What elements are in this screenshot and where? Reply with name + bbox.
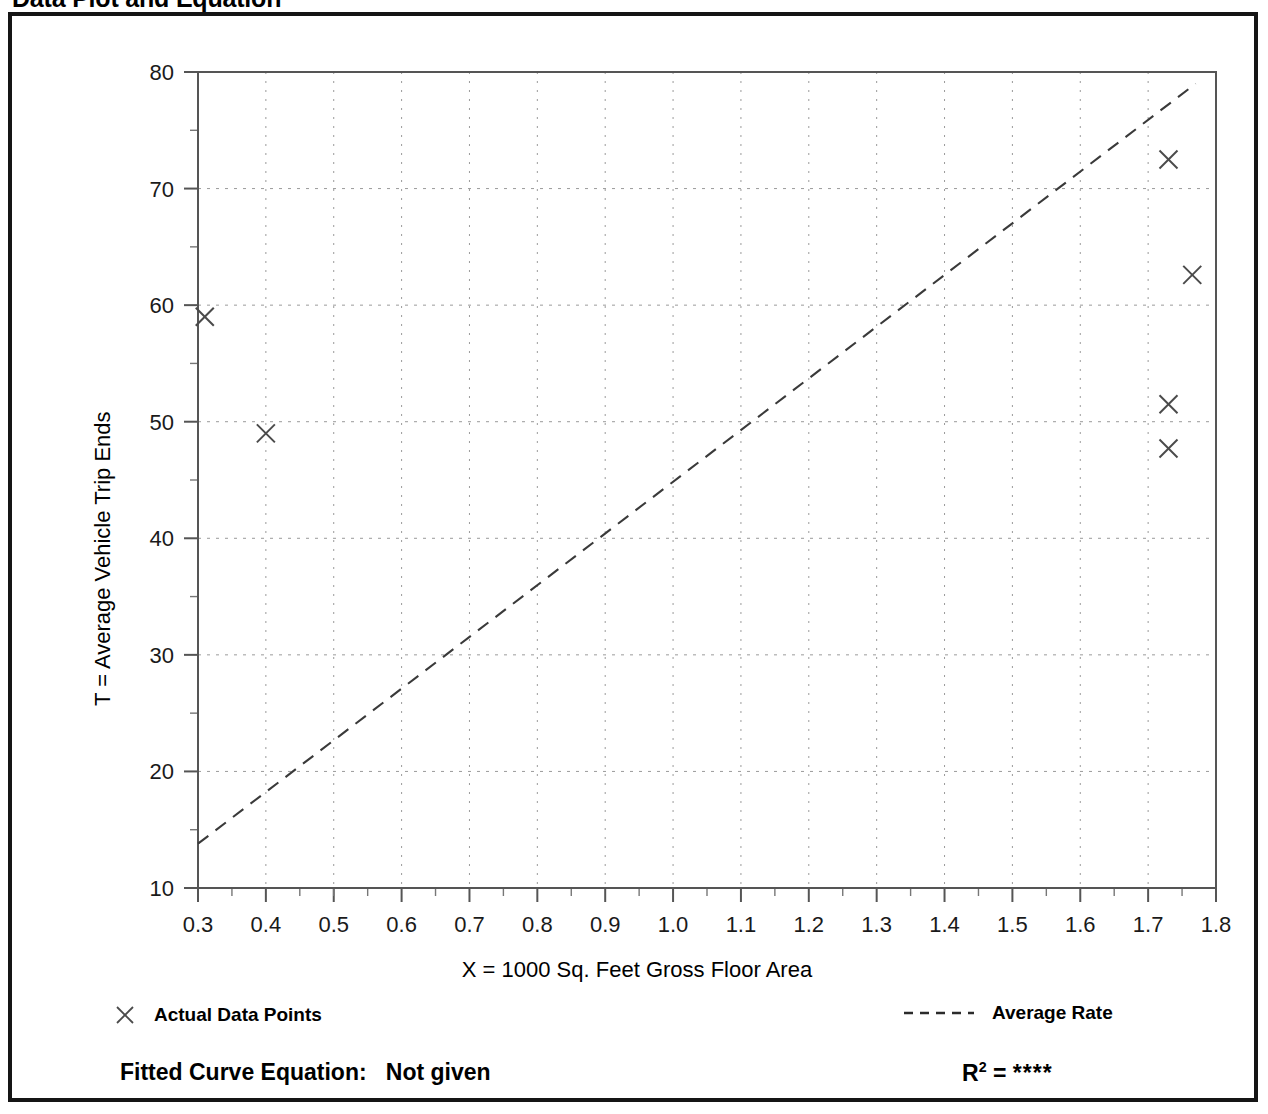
average-rate-trend-line [198, 84, 1196, 844]
axis-lines [198, 72, 1216, 888]
horizontal-gridlines [198, 72, 1216, 771]
x-tick-label: 0.6 [386, 912, 417, 937]
x-tick-label: 1.1 [726, 912, 757, 937]
y-tick-label: 20 [150, 759, 174, 784]
x-tick-label: 1.6 [1065, 912, 1096, 937]
y-axis-ticks [184, 72, 198, 888]
data-point-marker [1159, 150, 1177, 168]
x-axis-tick-labels: 0.30.40.50.60.70.80.91.01.11.21.31.41.51… [183, 912, 1232, 937]
x-tick-label: 1.0 [658, 912, 689, 937]
legend-item-actual-data-points: Actual Data Points [112, 1002, 322, 1028]
x-tick-label: 1.2 [794, 912, 825, 937]
x-tick-label: 1.8 [1201, 912, 1232, 937]
y-tick-label: 80 [150, 60, 174, 85]
x-tick-label: 0.5 [318, 912, 349, 937]
r-squared-exponent: 2 [979, 1059, 987, 1075]
x-tick-label: 1.3 [861, 912, 892, 937]
r-squared-symbol: R [962, 1060, 979, 1086]
y-tick-label: 30 [150, 643, 174, 668]
r-squared-value: **** [1013, 1060, 1053, 1086]
x-tick-label: 0.8 [522, 912, 553, 937]
x-tick-label: 0.7 [454, 912, 485, 937]
x-tick-label: 0.9 [590, 912, 621, 937]
x-axis-title: X = 1000 Sq. Feet Gross Floor Area [12, 957, 1262, 983]
x-tick-label: 0.4 [251, 912, 282, 937]
fitted-curve-equation-value: Not given [386, 1059, 491, 1085]
data-point-marker [257, 424, 275, 442]
chart-footer: Fitted Curve Equation: Not given R2 = **… [12, 1059, 1262, 1099]
x-tick-label: 0.3 [183, 912, 214, 937]
vertical-gridlines [266, 72, 1148, 888]
x-marker-icon [112, 1002, 138, 1028]
y-tick-label: 70 [150, 177, 174, 202]
r-squared-equals: = [993, 1060, 1006, 1086]
legend-label-actual-data-points: Actual Data Points [154, 1004, 322, 1026]
data-point-marker [1159, 440, 1177, 458]
axis-box [198, 72, 1216, 888]
legend-item-average-rate: Average Rate [902, 1002, 1113, 1024]
trend-line-average-rate [198, 84, 1196, 844]
fitted-curve-equation: Fitted Curve Equation: Not given [120, 1059, 491, 1086]
chart-legend: Actual Data Points Average Rate [12, 1002, 1262, 1036]
y-tick-label: 60 [150, 293, 174, 318]
y-tick-label: 50 [150, 410, 174, 435]
r-squared-statistic: R2 = **** [962, 1059, 1053, 1087]
legend-label-average-rate: Average Rate [992, 1002, 1113, 1024]
data-point-marker [1183, 266, 1201, 284]
y-tick-label: 40 [150, 526, 174, 551]
figure-frame: 1020304050607080 0.30.40.50.60.70.80.91.… [8, 12, 1258, 1102]
data-point-marker [1159, 395, 1177, 413]
y-axis-tick-labels: 1020304050607080 [150, 60, 174, 901]
x-tick-label: 1.5 [997, 912, 1028, 937]
dashed-line-icon [902, 1006, 976, 1020]
x-axis-ticks [198, 888, 1216, 902]
y-tick-label: 10 [150, 876, 174, 901]
y-axis-title: T = Average Vehicle Trip Ends [90, 411, 116, 706]
chart-plot-area: 1020304050607080 0.30.40.50.60.70.80.91.… [12, 16, 1262, 1106]
data-point-markers [196, 150, 1201, 457]
fitted-curve-equation-label: Fitted Curve Equation: [120, 1059, 367, 1085]
x-tick-label: 1.7 [1133, 912, 1164, 937]
x-tick-label: 1.4 [929, 912, 960, 937]
